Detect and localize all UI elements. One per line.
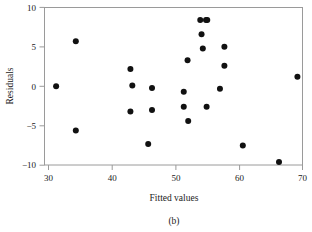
data-point: [199, 31, 205, 37]
scatter-plot-figure: 30 40 50 60 70 10 5 0 −5 −10 Fitted valu…: [0, 0, 312, 232]
y-tick-label: −10: [22, 160, 37, 170]
figure-caption: (b): [168, 216, 179, 227]
data-point: [181, 89, 187, 95]
x-tick-label: 30: [44, 173, 54, 183]
data-point: [204, 17, 210, 23]
y-tick-label: −5: [26, 121, 36, 131]
data-point: [185, 57, 191, 63]
data-point: [276, 159, 282, 165]
x-axis-label: Fitted values: [150, 193, 199, 203]
data-point: [73, 38, 79, 44]
data-point: [127, 66, 133, 72]
x-tick-label: 40: [108, 173, 118, 183]
data-point: [294, 74, 300, 80]
y-tick-label: 0: [32, 82, 37, 92]
y-tick-label: 5: [32, 42, 37, 52]
data-point: [204, 104, 210, 110]
data-point: [221, 63, 227, 69]
x-tick-label: 60: [235, 173, 245, 183]
data-point: [197, 17, 203, 23]
data-point: [181, 104, 187, 110]
data-point: [53, 83, 59, 89]
data-point: [217, 86, 223, 92]
data-point: [200, 45, 206, 51]
data-point: [127, 109, 133, 115]
y-axis-label: Residuals: [5, 67, 15, 104]
data-point: [149, 107, 155, 113]
data-point: [129, 83, 135, 89]
data-point: [145, 141, 151, 147]
data-point: [221, 44, 227, 50]
data-point: [185, 118, 191, 124]
x-tick-label: 70: [298, 173, 308, 183]
data-point: [149, 85, 155, 91]
x-tick-label: 50: [171, 173, 181, 183]
data-point: [240, 142, 246, 148]
data-point: [73, 127, 79, 133]
y-tick-label: 10: [27, 3, 37, 13]
plot-svg: 30 40 50 60 70 10 5 0 −5 −10 Fitted valu…: [0, 0, 312, 232]
